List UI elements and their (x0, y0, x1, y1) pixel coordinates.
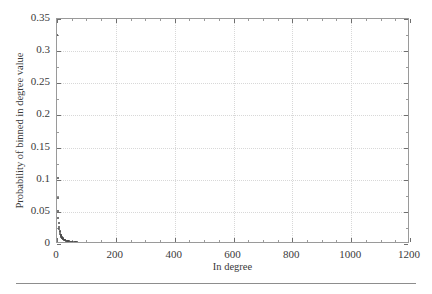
data-point (57, 217, 59, 219)
data-point (57, 177, 59, 179)
data-point (57, 34, 58, 36)
data-point (57, 210, 59, 212)
figure-container: Probability of binned in degree value 00… (0, 0, 432, 294)
x-axis-title: In degree (56, 261, 409, 272)
y-tick-label: 0 (0, 237, 50, 248)
data-point (57, 197, 59, 199)
y-tick-label: 0.2 (0, 108, 50, 119)
x-tick-label: 200 (85, 249, 145, 260)
data-series-layer (57, 19, 408, 242)
x-tick-label: 1000 (320, 249, 380, 260)
y-tick-label: 0.3 (0, 44, 50, 55)
y-tick-label: 0.15 (0, 141, 50, 152)
plot-area (56, 18, 409, 243)
x-tick-label: 400 (144, 249, 204, 260)
x-tick-label: 0 (26, 249, 86, 260)
x-tick-label: 600 (203, 249, 263, 260)
figure-bottom-rule (16, 283, 416, 284)
y-tick-label: 0.05 (0, 205, 50, 216)
x-tick-label: 800 (261, 249, 321, 260)
y-axis-tick (404, 244, 408, 245)
y-tick-label: 0.25 (0, 76, 50, 87)
y-tick-label: 0.1 (0, 173, 50, 184)
y-tick-label: 0.35 (0, 12, 50, 23)
x-tick-label: 1200 (379, 249, 432, 260)
x-axis-tick (410, 19, 411, 23)
data-point (58, 222, 60, 224)
x-axis-tick (410, 238, 411, 242)
y-axis-tick (57, 244, 61, 245)
